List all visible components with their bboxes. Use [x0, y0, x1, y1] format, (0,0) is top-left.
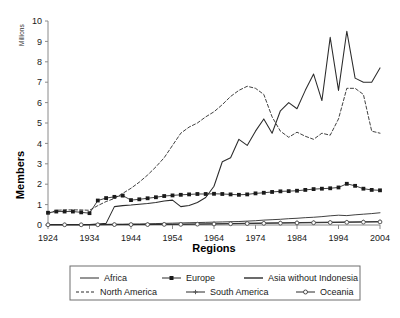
series-marker	[362, 187, 366, 191]
series-marker	[378, 188, 382, 192]
series-marker	[179, 193, 183, 197]
series-marker	[287, 189, 291, 193]
series-marker	[229, 222, 233, 226]
legend-box: AfricaEuropeAsia without IndonesiaNorth …	[70, 266, 360, 300]
legend-item-label: Asia without Indonesia	[268, 273, 358, 283]
series-marker	[46, 223, 50, 227]
series-marker	[179, 222, 183, 226]
series-marker	[154, 195, 158, 199]
legend-item-label: North America	[100, 287, 157, 297]
y-tick-label: 5	[37, 118, 42, 128]
series-marker	[229, 193, 233, 197]
legend-item-label: Africa	[104, 273, 127, 283]
x-tick-label: 1934	[79, 233, 99, 243]
x-axis: 192419341944195419641974198419942004	[38, 225, 390, 243]
series-marker	[162, 194, 166, 198]
series-marker	[245, 222, 249, 226]
series-marker	[187, 193, 191, 197]
x-tick-label: 1944	[121, 233, 141, 243]
series-marker	[63, 223, 67, 227]
series-marker	[312, 187, 316, 191]
series-marker	[328, 186, 332, 190]
series-marker	[295, 189, 299, 193]
series-marker	[270, 190, 274, 194]
y-tick-label: 6	[37, 98, 42, 108]
legend-item-label: South America	[210, 287, 269, 297]
series-marker	[237, 193, 241, 197]
y-axis: 012345678910	[32, 16, 48, 230]
series-marker	[320, 187, 324, 191]
legend-item-label: Europe	[186, 273, 215, 283]
series-marker	[279, 189, 283, 193]
series-marker	[137, 197, 141, 201]
y-tick-label: 8	[37, 57, 42, 67]
series-marker	[171, 194, 175, 198]
series-marker	[345, 182, 349, 186]
series-marker	[303, 188, 307, 192]
series-marker	[196, 222, 200, 226]
series-marker	[212, 192, 216, 196]
series-marker	[129, 223, 133, 227]
series-marker	[212, 222, 216, 226]
y-tick-label: 10	[32, 16, 42, 26]
x-axis-title: Regions	[192, 242, 235, 254]
series-marker	[146, 223, 150, 227]
series-marker	[362, 220, 366, 224]
y-axis-title: Members	[14, 151, 26, 199]
series-marker	[96, 199, 100, 203]
y-tick-label: 2	[37, 179, 42, 189]
legend-marker	[304, 290, 308, 294]
series-marker	[113, 223, 117, 227]
y-tick-label: 3	[37, 159, 42, 169]
y-tick-label: 9	[37, 37, 42, 47]
x-tick-label: 1984	[287, 233, 307, 243]
series-marker	[328, 221, 332, 225]
y-tick-label: 0	[37, 220, 42, 230]
series-marker	[370, 188, 374, 192]
x-tick-label: 1954	[162, 233, 182, 243]
series-marker	[279, 221, 283, 225]
series-marker	[104, 196, 108, 200]
series-marker	[262, 191, 266, 195]
series-marker	[79, 210, 83, 214]
chart-figure: 012345678910 192419341944195419641974198…	[0, 0, 400, 318]
series-marker	[345, 220, 349, 224]
x-tick-label: 1994	[328, 233, 348, 243]
x-tick-label: 1974	[245, 233, 265, 243]
y-axis-unit-label: Millions	[18, 24, 25, 46]
series-marker	[353, 184, 357, 188]
legend-item-label: Oceania	[320, 287, 354, 297]
series-marker	[129, 198, 133, 202]
y-tick-label: 4	[37, 139, 42, 149]
series-marker	[79, 223, 83, 227]
plot-area: 012345678910 192419341944195419641974198…	[32, 16, 390, 243]
y-tick-label: 1	[37, 200, 42, 210]
legend-marker	[170, 276, 174, 280]
series-marker	[220, 192, 224, 196]
series-marker	[146, 196, 150, 200]
series-marker	[295, 221, 299, 225]
series-marker	[254, 191, 258, 195]
series-marker	[378, 220, 382, 224]
series-marker	[337, 186, 341, 190]
y-tick-label: 7	[37, 77, 42, 87]
series-marker	[312, 221, 316, 225]
x-tick-label: 2004	[370, 233, 390, 243]
x-tick-label: 1924	[38, 233, 58, 243]
series-marker	[245, 193, 249, 197]
series-marker	[162, 222, 166, 226]
series-marker	[88, 211, 92, 215]
series-marker	[96, 223, 100, 227]
series-marker	[262, 221, 266, 225]
series-marker	[196, 192, 200, 196]
members-by-region-line-chart: 012345678910 192419341944195419641974198…	[0, 0, 400, 318]
